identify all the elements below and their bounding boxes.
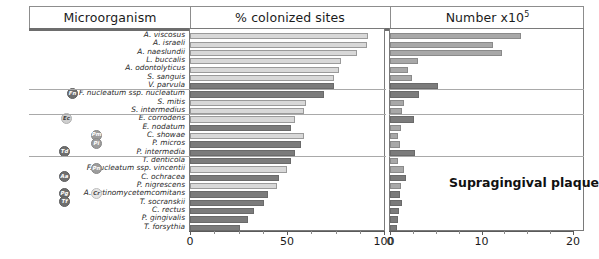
- bar-row: [190, 157, 384, 165]
- axis-minor-tick: [504, 231, 505, 234]
- bar-row: [390, 124, 583, 132]
- bar-row: [190, 190, 384, 198]
- axis-minor-tick: [311, 231, 312, 234]
- bar-row: [390, 74, 583, 82]
- axis-tick-label: 0: [387, 235, 394, 248]
- bar: [190, 183, 277, 189]
- complex-badge-aa: Aa: [59, 171, 70, 182]
- group-divider: [29, 114, 386, 115]
- axis-minor-tick: [413, 231, 414, 234]
- bar-row: [190, 124, 384, 132]
- bar: [390, 125, 401, 131]
- complex-badge-cr: Cr: [91, 188, 102, 199]
- bar: [190, 133, 304, 139]
- bar-row: [390, 140, 583, 148]
- bar: [390, 183, 401, 189]
- axis-tick-label: 50: [280, 235, 294, 248]
- bar: [390, 100, 404, 106]
- bar-row: [190, 132, 384, 140]
- bar: [390, 42, 493, 48]
- bar-row: [390, 165, 583, 173]
- header-number-exponent: 5: [524, 10, 529, 19]
- header-percent-colonized: % colonized sites: [190, 7, 390, 29]
- bar: [390, 133, 398, 139]
- group-divider: [29, 156, 386, 157]
- bar: [190, 208, 254, 214]
- bar: [190, 67, 339, 73]
- group-divider: [29, 89, 386, 90]
- bar: [190, 91, 324, 97]
- axis-minor-tick: [214, 231, 215, 234]
- bar: [190, 225, 240, 231]
- bar: [190, 75, 334, 81]
- bar-row: [390, 49, 583, 57]
- bar-row: [390, 40, 583, 48]
- bar: [390, 158, 398, 164]
- group-divider: [389, 156, 584, 157]
- bar-row: [190, 165, 384, 173]
- number-bars: [390, 32, 583, 232]
- bar-row: [190, 182, 384, 190]
- bar-row: [190, 140, 384, 148]
- bar: [190, 116, 295, 122]
- axis-tick-label: 0: [187, 235, 194, 248]
- bar-row: [190, 32, 384, 40]
- number-plot-frame: [389, 28, 584, 231]
- bar: [190, 125, 291, 131]
- bar-row: [390, 90, 583, 98]
- bar: [190, 216, 248, 222]
- axis-tick-label: 20: [566, 235, 580, 248]
- bar: [190, 50, 357, 56]
- bar: [390, 175, 406, 181]
- bar-row: [390, 215, 583, 223]
- bar: [390, 141, 400, 147]
- bar: [190, 158, 291, 164]
- number-axis: 01020: [389, 231, 584, 249]
- bar: [390, 200, 402, 206]
- header-microorganism: Microorganism: [30, 7, 190, 29]
- complex-badge-pi: Pi: [91, 138, 102, 149]
- axis-minor-tick: [336, 231, 337, 234]
- bar-row: [190, 115, 384, 123]
- bar: [190, 141, 301, 147]
- axis-minor-tick: [436, 231, 437, 234]
- bar: [190, 58, 341, 64]
- bar-row: [190, 74, 384, 82]
- bar: [190, 166, 287, 172]
- bar-row: [190, 174, 384, 182]
- bar-row: [190, 57, 384, 65]
- bar: [390, 50, 502, 56]
- bar-row: [390, 99, 583, 107]
- bar-row: [390, 157, 583, 165]
- bar: [390, 91, 419, 97]
- bar: [190, 42, 367, 48]
- group-divider: [389, 89, 584, 90]
- bar: [390, 166, 404, 172]
- bar: [390, 33, 521, 39]
- bar-row: [190, 199, 384, 207]
- axis-minor-tick: [550, 231, 551, 234]
- bar-row: [190, 215, 384, 223]
- bar: [190, 191, 268, 197]
- bar: [390, 191, 400, 197]
- bar: [390, 75, 412, 81]
- bar: [390, 67, 408, 73]
- bar: [390, 58, 418, 64]
- bar: [390, 116, 414, 122]
- bar-row: [190, 90, 384, 98]
- bar: [390, 225, 397, 231]
- bar-row: [390, 190, 583, 198]
- axis-minor-tick: [527, 231, 528, 234]
- bar-row: [390, 65, 583, 73]
- axis-tick-label: 10: [475, 235, 489, 248]
- header-number-text: Number x10: [446, 10, 525, 25]
- bar-row: [390, 32, 583, 40]
- bar: [390, 216, 398, 222]
- axis-minor-tick: [360, 231, 361, 234]
- bar-row: [190, 49, 384, 57]
- bar: [190, 100, 306, 106]
- bar-row: [390, 115, 583, 123]
- header-number: Number x105: [390, 7, 585, 29]
- complex-badge-column: FnEcPmPiTdPnAaCrPgTf: [29, 31, 189, 231]
